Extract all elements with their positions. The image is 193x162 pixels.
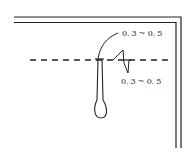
leader-line-top [98, 33, 118, 59]
dimension-label-top: 0. 3 ~ 0. 5 [122, 29, 162, 38]
teardrop-bead-shape [95, 59, 107, 118]
dimension-label-bottom: 0. 3 ~ 0. 5 [121, 77, 161, 86]
zigzag-dimension-marker [113, 50, 129, 73]
diagram-canvas [0, 0, 193, 162]
